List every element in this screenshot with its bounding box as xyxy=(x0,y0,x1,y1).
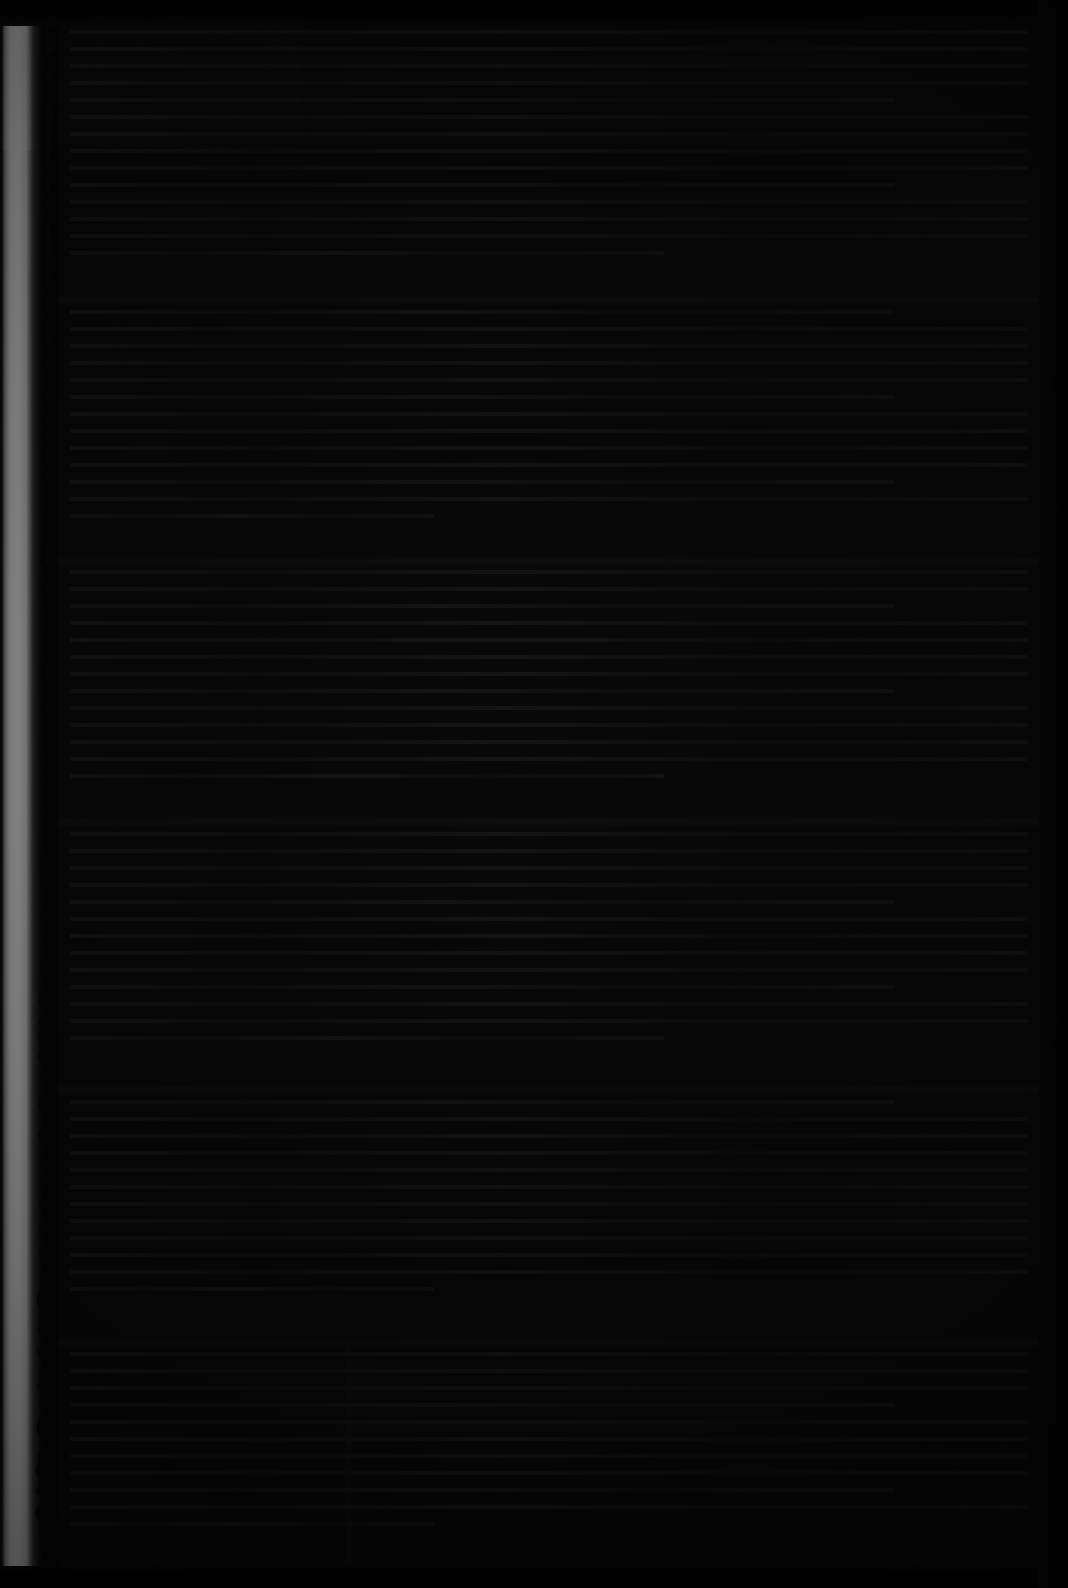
text-block-5 xyxy=(70,1100,1028,1332)
text-block-3 xyxy=(70,570,1028,812)
block-seam-1 xyxy=(46,295,1042,305)
bottom-edge-band xyxy=(0,1566,1068,1588)
top-edge-band xyxy=(0,0,1068,26)
text-block-6 xyxy=(70,1352,1028,1566)
scanned-page-viewport: Severely underexposed photographic scan … xyxy=(0,0,1068,1588)
block-seam-3 xyxy=(46,817,1042,827)
torn-paper-edge xyxy=(0,0,46,1588)
column-seam xyxy=(345,1345,353,1588)
block-seam-4 xyxy=(46,1085,1042,1095)
block-seam-2 xyxy=(46,557,1042,567)
block-seam-5 xyxy=(46,1337,1042,1347)
text-block-2 xyxy=(70,310,1028,558)
text-block-4 xyxy=(70,832,1028,1078)
right-margin-band xyxy=(1038,0,1068,1588)
text-block-1 xyxy=(70,30,1028,298)
